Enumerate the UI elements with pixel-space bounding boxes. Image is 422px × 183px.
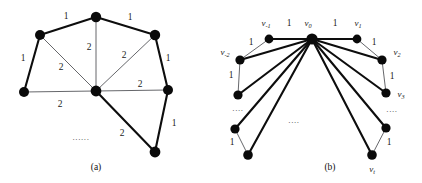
panel-b-edges <box>235 39 386 155</box>
vertex-label-subscript: t <box>373 168 375 175</box>
graph-edge <box>248 39 312 155</box>
vertex-label-subscript: -1 <box>265 22 270 29</box>
graph-edge <box>312 39 386 128</box>
edge-weight-label: 1 <box>21 54 26 64</box>
graph-vertex <box>235 55 244 64</box>
figure-container: 11111222222...... 11111111v0v-1v1v-2v2v3… <box>0 0 422 183</box>
graph-vertex <box>377 55 386 64</box>
graph-vertex <box>230 124 239 133</box>
vertex-label: vt <box>369 165 375 176</box>
graph-edge <box>24 91 96 92</box>
vertex-label: v-2 <box>220 48 229 59</box>
edge-weight-label: 1 <box>172 119 177 129</box>
graph-vertex <box>91 12 101 22</box>
graph-vertex <box>306 33 317 44</box>
edge-weight-label: 1 <box>390 72 395 82</box>
panel-b-caption: (b) <box>324 163 335 173</box>
edge-weight-label: 2 <box>122 51 127 61</box>
edge-weight-label: 1 <box>230 138 235 148</box>
graph-edge <box>96 17 155 35</box>
graph-edge <box>235 39 312 129</box>
graph-vertex <box>19 87 29 97</box>
edge-weight-label: 1 <box>166 54 171 64</box>
vertex-label: v-1 <box>261 19 270 30</box>
graph-edge <box>312 39 372 155</box>
graph-vertex <box>367 150 377 160</box>
graph-vertex <box>381 123 390 132</box>
graph-vertex <box>265 35 274 44</box>
graph-edge <box>96 91 155 152</box>
vertex-label-subscript: 0 <box>308 22 311 29</box>
vertex-label: v0 <box>304 19 311 30</box>
ellipsis-marker: .... <box>232 104 243 113</box>
panel-a-edges <box>24 17 168 152</box>
graph-vertex <box>35 30 45 40</box>
panel-a-caption: (a) <box>91 163 102 173</box>
edge-weight-label: 2 <box>138 80 143 90</box>
graph-edge <box>382 60 386 93</box>
edge-weight-label: 1 <box>387 138 392 148</box>
edge-weight-label: 2 <box>120 129 125 139</box>
edge-weight-label: 1 <box>229 71 234 81</box>
graph-edge <box>155 90 168 152</box>
graph-vertex <box>91 86 102 97</box>
vertex-label: v3 <box>397 90 404 101</box>
graph-vertex <box>163 85 173 95</box>
graph-vertex <box>150 30 160 40</box>
graph-edge <box>96 35 155 91</box>
edge-weight-label: 2 <box>58 100 63 110</box>
edge-weight-label: 1 <box>333 19 338 29</box>
graph-vertex <box>381 88 390 97</box>
vertex-label-subscript: 1 <box>358 22 361 29</box>
graph-edge <box>24 35 40 92</box>
edge-weight-label: 1 <box>249 38 254 48</box>
ellipsis-marker: .... <box>288 116 299 125</box>
edge-weight-label: 1 <box>372 38 377 48</box>
ellipsis-marker: ...... <box>72 133 89 142</box>
graph-vertex <box>353 35 362 44</box>
ellipsis-marker: .... <box>386 105 397 114</box>
graph-edge <box>96 90 168 91</box>
graph-edge <box>238 60 240 95</box>
panel-b-nodes <box>230 33 390 159</box>
vertex-label-subscript: -2 <box>224 51 229 58</box>
graph-vertex <box>233 90 242 99</box>
edge-weight-label: 2 <box>87 43 92 53</box>
graph-vertex <box>150 147 161 158</box>
edge-weight-label: 1 <box>128 13 133 23</box>
vertex-label-subscript: 2 <box>397 51 400 58</box>
vertex-label: v2 <box>393 48 400 59</box>
graph-vertex <box>243 150 253 160</box>
vertex-label: v1 <box>354 19 361 30</box>
edge-weight-label: 2 <box>59 63 64 73</box>
edge-weight-label: 1 <box>64 12 69 22</box>
vertex-label-subscript: 3 <box>401 93 404 100</box>
edge-weight-label: 1 <box>287 19 292 29</box>
